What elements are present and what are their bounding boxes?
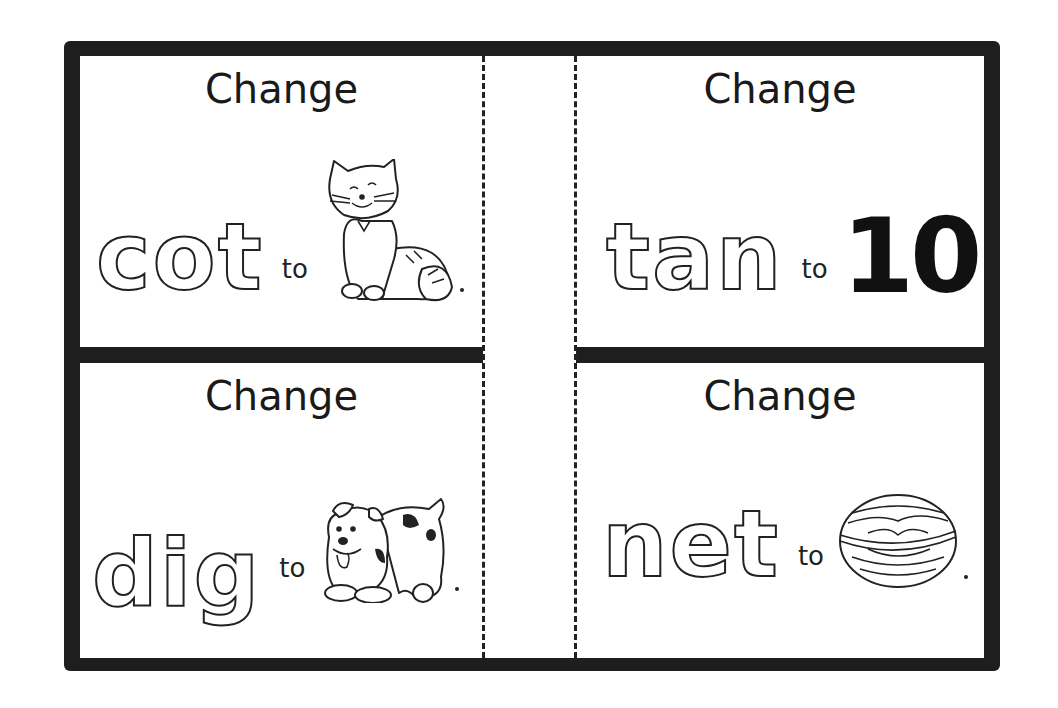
outlined-word: net xyxy=(602,499,780,591)
change-heading: Change xyxy=(576,373,984,419)
center-strip xyxy=(483,56,576,658)
change-heading: Change xyxy=(80,373,483,419)
period xyxy=(460,288,464,292)
nut-icon xyxy=(838,491,958,591)
connector-text: to xyxy=(279,555,305,581)
change-heading: Change xyxy=(576,66,984,112)
card-net: Change net to xyxy=(576,363,984,658)
card-cot: Change cot to xyxy=(80,56,483,347)
period xyxy=(984,288,988,292)
target-number: 10 xyxy=(842,210,979,304)
card-tan: Change tan to 10 xyxy=(576,56,984,347)
connector-text: to xyxy=(802,256,828,282)
cat-icon xyxy=(322,159,454,304)
connector-text: to xyxy=(282,256,308,282)
card-dig: Change dig to xyxy=(80,363,483,658)
period xyxy=(455,587,459,591)
change-heading: Change xyxy=(80,66,483,112)
outlined-word: dig xyxy=(92,529,261,621)
period xyxy=(964,575,968,579)
outlined-word: tan xyxy=(606,212,784,304)
dog-icon xyxy=(319,497,449,603)
outlined-word: cot xyxy=(96,212,264,304)
connector-text: to xyxy=(798,543,824,569)
